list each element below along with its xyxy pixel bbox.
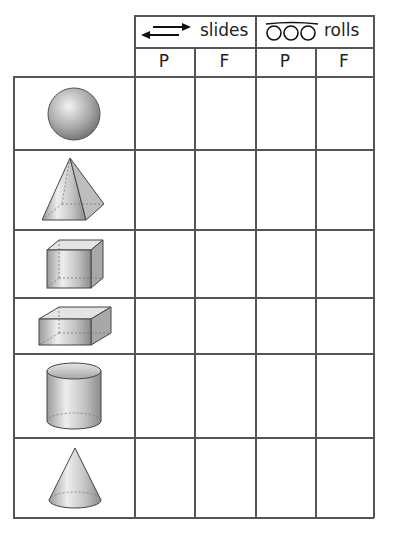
cube-icon: [45, 238, 105, 290]
col-divider: [194, 47, 196, 518]
header-mid-border: [134, 47, 374, 49]
header-rolls-label: rolls: [324, 22, 372, 39]
subheader-rolls-p: P: [255, 53, 315, 70]
subheader-slides-p: P: [134, 53, 194, 70]
pyramid-icon: [40, 156, 106, 222]
header-top-border: [134, 15, 374, 17]
subheader-rolls-f: F: [315, 53, 373, 70]
col-divider: [315, 47, 317, 518]
sphere-icon: [46, 86, 102, 142]
table-left-border: [13, 76, 15, 518]
cylinder-icon: [45, 361, 103, 431]
table-right-border: [373, 15, 375, 518]
double-arrow-icon: [141, 22, 191, 40]
loops-icon: [264, 21, 320, 41]
header-slides-label: slides: [200, 22, 254, 39]
cone-icon: [47, 446, 103, 510]
shape-column-divider: [134, 15, 136, 518]
subheader-slides-f: F: [194, 53, 255, 70]
cuboid-icon: [37, 305, 113, 347]
group-divider: [255, 15, 257, 518]
